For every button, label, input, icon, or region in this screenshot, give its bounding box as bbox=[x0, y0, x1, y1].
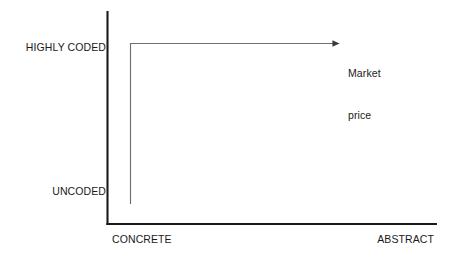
market-price-annotation-line-2: price bbox=[348, 108, 381, 122]
market-price-annotation: Market price bbox=[348, 38, 381, 150]
information-space-diagram: HIGHLY CODED UNCODED CONCRETE ABSTRACT M… bbox=[0, 0, 449, 258]
diagram-canvas bbox=[0, 0, 449, 258]
x-axis-label-concrete: CONCRETE bbox=[112, 233, 172, 245]
market-price-annotation-line-1: Market bbox=[348, 66, 381, 80]
x-axis-label-abstract: ABSTRACT bbox=[320, 233, 434, 245]
market-price-curve bbox=[131, 44, 340, 205]
y-axis-label-uncoded: UNCODED bbox=[0, 185, 106, 197]
y-axis-label-highly-coded: HIGHLY CODED bbox=[0, 41, 106, 53]
